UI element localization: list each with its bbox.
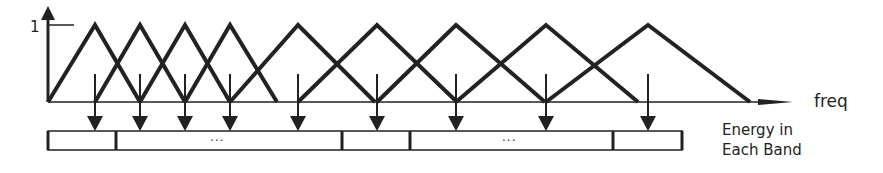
filter-triangle-7	[377, 25, 545, 102]
band-caption: Energy in Each Band	[722, 120, 802, 160]
x-axis-label: freq	[814, 91, 848, 111]
band-box-outline	[48, 131, 682, 150]
band-energy-box	[48, 131, 682, 150]
x-axis-arrowhead-icon	[758, 99, 793, 105]
caption-line-2: Each Band	[722, 140, 802, 160]
ellipsis-2: ...	[502, 130, 516, 144]
ellipsis-1: ...	[210, 130, 224, 144]
triangular-filters	[48, 25, 750, 102]
y-axis-label: 1	[30, 18, 40, 36]
y-axis-arrowhead-icon	[41, 6, 55, 20]
axes	[41, 6, 793, 105]
caption-line-1: Energy in	[722, 120, 802, 140]
